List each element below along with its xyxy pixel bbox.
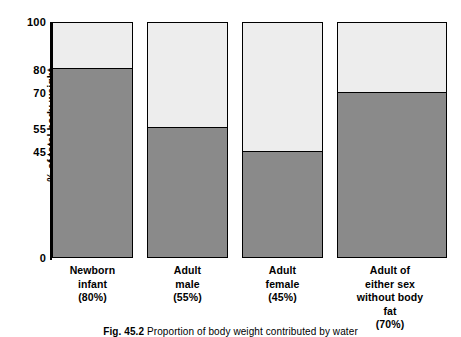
category-label-adult-male: Adult male (55%) (147, 264, 228, 305)
bar-group-adult-male[interactable] (147, 22, 228, 258)
category-label-adult-female: Adult female (45%) (242, 264, 323, 305)
plot-area (52, 22, 447, 258)
category-label-newborn-infant: Newborn infant (80%) (52, 264, 133, 305)
bar-group-adult-without-body-fat[interactable] (337, 22, 447, 258)
y-tick-70: 70 (14, 87, 46, 99)
y-tick-100: 100 (14, 16, 46, 28)
bar-segment-upper-adult-male (147, 22, 228, 128)
bar-segment-lower-adult-without-body-fat (337, 93, 447, 258)
bar-segment-upper-adult-female (242, 22, 323, 152)
figure-caption: Fig. 45.2 Proportion of body weight cont… (0, 326, 461, 337)
y-tick-45: 45 (14, 146, 46, 158)
bar-segment-lower-adult-female (242, 152, 323, 258)
bar-segment-upper-adult-without-body-fat (337, 22, 447, 93)
y-tick-0: 0 (14, 252, 46, 264)
y-tick-80: 80 (14, 64, 46, 76)
bar-group-newborn-infant[interactable] (52, 22, 133, 258)
category-label-adult-without-body-fat: Adult of either sex without body fat (70… (330, 264, 450, 332)
bar-segment-lower-adult-male (147, 128, 228, 258)
figure-caption-text: Proportion of body weight contributed by… (147, 326, 358, 337)
y-axis-ticks: 100 80 70 55 45 0 (14, 0, 46, 335)
bar-group-adult-female[interactable] (242, 22, 323, 258)
figure-number: Fig. 45.2 (103, 326, 144, 337)
bar-segment-upper-newborn-infant (52, 22, 133, 69)
y-tick-55: 55 (14, 123, 46, 135)
bar-segment-lower-newborn-infant (52, 69, 133, 258)
